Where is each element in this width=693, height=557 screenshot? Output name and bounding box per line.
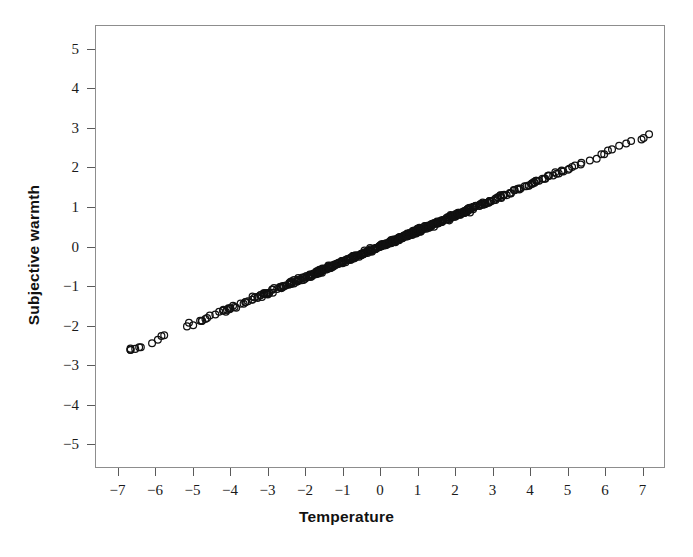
x-axis-tick-label: −3 — [260, 482, 276, 499]
x-axis-tick-label: 0 — [376, 482, 384, 499]
y-axis-tick-label: 2 — [47, 159, 79, 176]
chart-figure: 543210−1−2−3−4−5 −7−6−5−4−3−2−101234567 … — [0, 0, 693, 557]
y-axis-tick — [87, 207, 95, 208]
x-axis-tick — [380, 468, 381, 476]
scatter-point — [586, 157, 593, 164]
x-axis-tick — [193, 468, 194, 476]
y-axis-tick — [87, 286, 95, 287]
x-axis-tick-label: 1 — [414, 482, 422, 499]
x-axis-title: Temperature — [0, 508, 693, 526]
x-axis-tick — [305, 468, 306, 476]
x-axis-tick — [493, 468, 494, 476]
y-axis-title: Subjective warmth — [25, 135, 43, 375]
x-axis-tick — [530, 468, 531, 476]
x-axis-tick-label: 7 — [639, 482, 647, 499]
x-axis-tick-label: 6 — [601, 482, 609, 499]
x-axis-tick — [418, 468, 419, 476]
y-axis-tick — [87, 49, 95, 50]
x-axis-tick-label: −2 — [297, 482, 313, 499]
scatter-series — [96, 26, 664, 467]
y-axis-tick — [87, 326, 95, 327]
x-axis-tick — [643, 468, 644, 476]
x-axis-tick — [230, 468, 231, 476]
y-axis-tick — [87, 247, 95, 248]
x-axis-tick — [605, 468, 606, 476]
y-axis-tick-label: −1 — [47, 278, 79, 295]
scatter-point — [616, 142, 623, 149]
y-axis-tick-label: −3 — [47, 357, 79, 374]
scatter-points-group — [127, 131, 652, 354]
x-axis-tick — [155, 468, 156, 476]
y-axis-tick-label: 5 — [47, 40, 79, 57]
x-axis-tick-label: −5 — [185, 482, 201, 499]
x-axis-tick — [118, 468, 119, 476]
x-axis-tick-label: −1 — [335, 482, 351, 499]
x-axis-tick-label: −6 — [147, 482, 163, 499]
x-axis-tick — [455, 468, 456, 476]
y-axis-tick-label: 4 — [47, 80, 79, 97]
x-axis-tick-label: 3 — [489, 482, 497, 499]
y-axis-tick-label: 3 — [47, 119, 79, 136]
y-axis-tick — [87, 405, 95, 406]
x-axis-tick-label: 2 — [451, 482, 459, 499]
x-axis-tick — [343, 468, 344, 476]
y-axis-tick-label: 1 — [47, 198, 79, 215]
plot-panel — [95, 25, 665, 468]
y-axis-tick — [87, 365, 95, 366]
y-axis-tick — [87, 167, 95, 168]
scatter-point — [646, 131, 653, 138]
y-axis-tick-label: −2 — [47, 317, 79, 334]
x-axis-tick-label: −7 — [110, 482, 126, 499]
x-axis-tick — [568, 468, 569, 476]
y-axis-tick-label: −4 — [47, 396, 79, 413]
y-axis-tick-label: −5 — [47, 436, 79, 453]
y-axis-tick — [87, 444, 95, 445]
y-axis-tick — [87, 88, 95, 89]
x-axis-tick — [268, 468, 269, 476]
x-axis-tick-label: 4 — [526, 482, 534, 499]
y-axis-tick-label: 0 — [47, 238, 79, 255]
y-axis-tick — [87, 128, 95, 129]
x-axis-tick-label: −4 — [222, 482, 238, 499]
scatter-point — [609, 146, 616, 153]
x-axis-tick-label: 5 — [564, 482, 572, 499]
